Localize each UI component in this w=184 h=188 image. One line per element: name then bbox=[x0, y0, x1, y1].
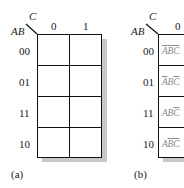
term-literal-c: C bbox=[173, 77, 179, 87]
map-b-row-divider bbox=[158, 65, 184, 66]
term-literal-c: C bbox=[173, 139, 179, 149]
map-b-caption: (b) bbox=[134, 169, 147, 180]
map-a-row-header: 10 bbox=[19, 139, 30, 150]
map-b-cell-term: ABC bbox=[162, 46, 179, 56]
map-a-caption: (a) bbox=[11, 169, 23, 180]
map-a-column-header: 0 bbox=[51, 21, 57, 32]
map-b-row-header: 11 bbox=[143, 108, 154, 119]
map-a-row-header: 11 bbox=[19, 108, 30, 119]
map-a-row-divider bbox=[37, 96, 102, 97]
map-a-row-header: 00 bbox=[19, 46, 30, 57]
term-literal-c: C bbox=[173, 46, 179, 56]
map-a-row-divider bbox=[37, 65, 102, 66]
map-a-row-divider bbox=[37, 127, 102, 128]
map-b-row-divider bbox=[158, 96, 184, 97]
map-b-row-header: 00 bbox=[143, 46, 154, 57]
term-literal-c: C bbox=[173, 108, 179, 118]
map-b-cell-term: ABC bbox=[162, 108, 179, 118]
map-a-row-header: 01 bbox=[19, 77, 30, 88]
map-b-row-variable: AB bbox=[131, 26, 144, 37]
map-b-column-header: 0 bbox=[175, 21, 181, 32]
map-a-row-variable: AB bbox=[11, 26, 24, 37]
map-b-cell-term: ABC bbox=[162, 77, 179, 87]
map-a-column-header: 1 bbox=[83, 21, 89, 32]
map-b-column-variable: C bbox=[149, 11, 156, 22]
map-b-corner-diagonal bbox=[146, 24, 158, 34]
map-b-row-divider bbox=[158, 127, 184, 128]
map-b-row-header: 10 bbox=[143, 139, 154, 150]
map-b-cell-term: ABC bbox=[162, 139, 179, 149]
map-a-corner-diagonal bbox=[26, 24, 37, 34]
map-b-row-header: 01 bbox=[143, 77, 154, 88]
map-a-column-variable: C bbox=[29, 11, 36, 22]
